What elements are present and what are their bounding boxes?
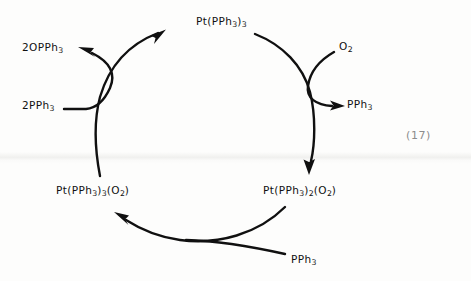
arrowhead-bottom-left [114,212,129,225]
species-label-pph3-right: PPh3 [347,99,373,112]
species-label-pt-pph3-3-o2: Pt(PPh3)3(O2) [56,185,129,198]
arrowhead-bottom-right [304,159,316,175]
species-label-o2: O2 [339,41,353,54]
arrow-cycle-arc-left-up [96,30,166,177]
species-label-pph3-bottom: PPh3 [291,254,317,267]
arrowhead-top [151,30,167,45]
figure-canvas: Pt(PPh3)3 2OPPh3 O2 2PPh3 PPh3 Pt(PPh3)3… [0,0,471,281]
species-label-2-pph3: 2PPh3 [22,100,55,113]
species-label-pt-pph3-2-o2: Pt(PPh3)2(O2) [263,185,336,198]
arrow-cycle-arc-right-down [255,34,315,175]
equation-number: (17) [406,130,431,141]
arrow-branch-2pph3-to-2opph3 [64,47,112,109]
arrow-branch-o2-to-pph3 [308,52,345,111]
species-label-2-opph3: 2OPPh3 [22,42,63,55]
arrow-layer [0,0,471,281]
species-label-pt-pph3-3: Pt(PPh3)3 [196,16,247,29]
arrow-cycle-arc-bottom-left [114,207,285,241]
